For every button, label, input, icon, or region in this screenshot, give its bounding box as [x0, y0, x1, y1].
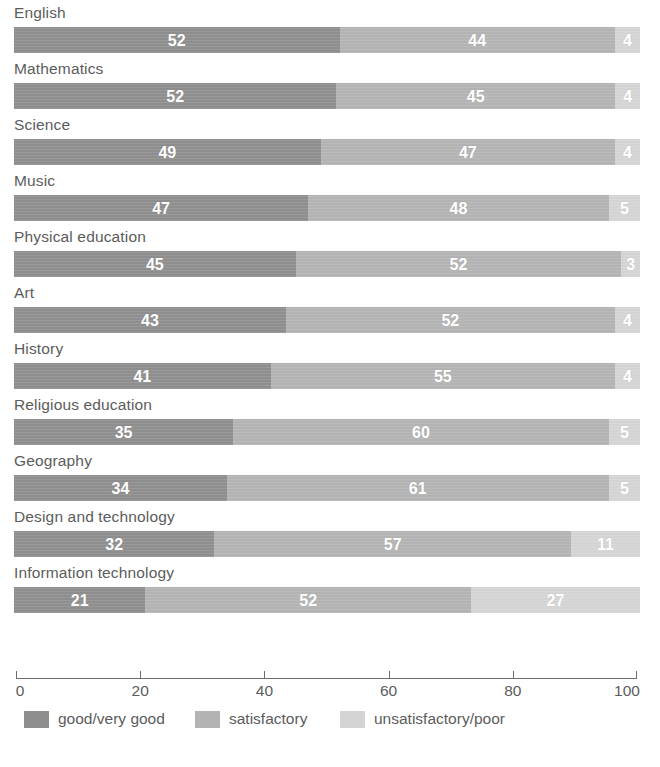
- axis-tick: [636, 671, 637, 679]
- bar-segment-value: 52: [299, 593, 317, 609]
- row-category-label: Information technology: [14, 560, 174, 586]
- stacked-bar: 52454: [14, 83, 640, 109]
- bar-segment-value: 61: [409, 481, 427, 497]
- legend-item[interactable]: unsatisfactory/poor: [340, 708, 505, 730]
- chart-row: Geography34615: [0, 448, 660, 504]
- bar-segment: 35: [14, 419, 233, 445]
- stacked-bar: 52444: [14, 27, 640, 53]
- legend-item[interactable]: good/very good: [24, 708, 165, 730]
- row-category-label: Geography: [14, 448, 92, 474]
- bar-segment-value: 32: [105, 537, 123, 553]
- bar-segment-value: 48: [450, 201, 468, 217]
- stacked-bar: 41554: [14, 363, 640, 389]
- bar-segment-value: 41: [133, 369, 151, 385]
- bar-segment: 32: [14, 531, 214, 557]
- row-category-label: Art: [14, 280, 34, 306]
- stacked-bar: 47485: [14, 195, 640, 221]
- chart-row: Mathematics52454: [0, 56, 660, 112]
- bar-segment: 55: [271, 363, 615, 389]
- bar-segment-value: 5: [620, 481, 629, 497]
- row-category-label: History: [14, 336, 63, 362]
- bar-segment: 48: [308, 195, 608, 221]
- bar-segment: 52: [286, 307, 615, 333]
- bar-segment: 5: [609, 195, 640, 221]
- bar-segment-value: 4: [623, 33, 632, 49]
- axis-tick-label: 20: [132, 682, 149, 700]
- bar-segment: 47: [14, 195, 308, 221]
- chart-row: Information technology215227: [0, 560, 660, 616]
- stacked-bar: 325711: [14, 531, 640, 557]
- bar-segment-value: 52: [166, 89, 184, 105]
- axis-tick: [16, 671, 17, 679]
- stacked-bar: 34615: [14, 475, 640, 501]
- legend-item[interactable]: satisfactory: [195, 708, 307, 730]
- stacked-bar: 45523: [14, 251, 640, 277]
- bar-segment-value: 52: [168, 33, 186, 49]
- bar-segment-value: 4: [623, 89, 632, 105]
- bar-segment: 52: [14, 83, 336, 109]
- chart-row: Religious education35605: [0, 392, 660, 448]
- legend-label: good/very good: [58, 711, 165, 727]
- stacked-bar: 35605: [14, 419, 640, 445]
- bar-segment: 3: [621, 251, 640, 277]
- bar-segment: 4: [615, 363, 640, 389]
- bar-segment: 52: [145, 587, 471, 613]
- legend-swatch-icon: [340, 711, 365, 728]
- bar-segment: 45: [336, 83, 615, 109]
- bar-segment-value: 21: [71, 593, 89, 609]
- bar-segment: 57: [214, 531, 571, 557]
- axis-line: [16, 678, 637, 679]
- bar-segment: 43: [14, 307, 286, 333]
- bar-segment-value: 52: [441, 313, 459, 329]
- bar-segment: 4: [615, 83, 640, 109]
- legend-label: satisfactory: [229, 711, 307, 727]
- stacked-bar: 43524: [14, 307, 640, 333]
- stacked-bar-chart: English52444Mathematics52454Science49474…: [0, 0, 660, 767]
- chart-row: Music47485: [0, 168, 660, 224]
- legend-swatch-icon: [195, 711, 220, 728]
- bar-segment-value: 43: [141, 313, 159, 329]
- bar-segment-value: 44: [468, 33, 486, 49]
- bar-segment: 47: [321, 139, 615, 165]
- axis-tick: [140, 671, 141, 679]
- axis-tick-label: 100: [614, 682, 640, 700]
- row-category-label: Design and technology: [14, 504, 175, 530]
- chart-legend: good/very goodsatisfactoryunsatisfactory…: [0, 708, 660, 734]
- bar-segment: 11: [571, 531, 640, 557]
- row-category-label: Music: [14, 168, 55, 194]
- chart-row: Science49474: [0, 112, 660, 168]
- figure-caption: [24, 752, 636, 767]
- axis-tick-label: 0: [16, 682, 25, 700]
- bar-segment-value: 4: [623, 369, 632, 385]
- axis-tick: [389, 671, 390, 679]
- row-category-label: Science: [14, 112, 70, 138]
- axis-tick: [513, 671, 514, 679]
- bar-segment: 49: [14, 139, 321, 165]
- bar-segment: 52: [296, 251, 622, 277]
- legend-label: unsatisfactory/poor: [374, 711, 505, 727]
- bar-segment: 4: [615, 307, 640, 333]
- chart-row: English52444: [0, 0, 660, 56]
- x-axis: 020406080100: [0, 670, 660, 710]
- axis-tick-label: 80: [504, 682, 521, 700]
- bar-segment-value: 3: [626, 257, 635, 273]
- bar-segment: 21: [14, 587, 145, 613]
- chart-row: Design and technology325711: [0, 504, 660, 560]
- bar-segment-value: 5: [620, 201, 629, 217]
- bar-segment: 5: [609, 475, 640, 501]
- bar-segment-value: 47: [152, 201, 170, 217]
- bar-segment: 61: [227, 475, 609, 501]
- bar-segment: 4: [615, 27, 640, 53]
- bar-segment-value: 52: [450, 257, 468, 273]
- chart-row: Physical education45523: [0, 224, 660, 280]
- bar-segment: 44: [340, 27, 615, 53]
- axis-tick-label: 40: [256, 682, 273, 700]
- bar-segment-value: 4: [623, 145, 632, 161]
- bar-segment-value: 5: [620, 425, 629, 441]
- bar-segment: 4: [615, 139, 640, 165]
- axis-tick: [264, 671, 265, 679]
- legend-swatch-icon: [24, 711, 49, 728]
- bar-segment-value: 4: [623, 313, 632, 329]
- bar-segment: 41: [14, 363, 271, 389]
- bar-segment-value: 47: [459, 145, 477, 161]
